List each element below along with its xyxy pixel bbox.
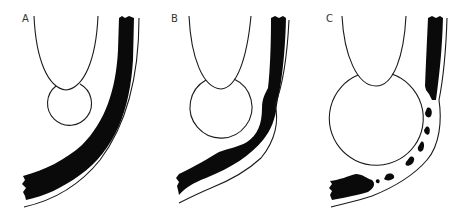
diagram-figure: A B C bbox=[0, 0, 454, 220]
black-layer-fragment bbox=[418, 142, 424, 152]
black-layer-fragment bbox=[425, 108, 432, 118]
bulb-circle bbox=[329, 74, 423, 165]
black-layer-intact bbox=[329, 174, 374, 200]
black-layer-intact bbox=[425, 16, 443, 100]
bulb-circle bbox=[48, 84, 92, 125]
black-layer bbox=[22, 16, 134, 200]
panel-a-drawing bbox=[0, 0, 151, 220]
u-shaped-body bbox=[34, 16, 98, 90]
black-layer-fragment bbox=[384, 174, 394, 181]
panel-c-drawing bbox=[302, 0, 453, 220]
panel-b: B bbox=[151, 0, 302, 220]
panel-a: A bbox=[0, 0, 151, 220]
bulb-circle bbox=[190, 79, 252, 138]
black-layer bbox=[176, 16, 286, 195]
u-shaped-body bbox=[189, 16, 251, 89]
black-layer-fragment bbox=[424, 127, 430, 135]
panel-b-drawing bbox=[151, 0, 302, 220]
panel-c: C bbox=[302, 0, 453, 220]
black-layer-fragment bbox=[376, 179, 380, 183]
black-layer-fragment bbox=[405, 157, 414, 166]
